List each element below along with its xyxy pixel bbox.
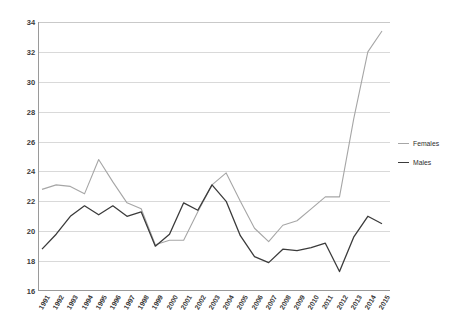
females-line-swatch bbox=[398, 143, 409, 144]
legend-item-females[interactable]: Females bbox=[398, 140, 439, 147]
legend: FemalesMales bbox=[398, 140, 439, 178]
females-line bbox=[42, 31, 382, 245]
data-series-group bbox=[0, 0, 457, 334]
legend-label-females: Females bbox=[413, 140, 439, 147]
males-line-swatch bbox=[398, 162, 409, 163]
chart-canvas: 34323028262422201816 1991199219931994199… bbox=[0, 0, 457, 334]
legend-item-males[interactable]: Males bbox=[398, 159, 439, 166]
males-line bbox=[42, 185, 382, 272]
legend-label-males: Males bbox=[413, 159, 431, 166]
